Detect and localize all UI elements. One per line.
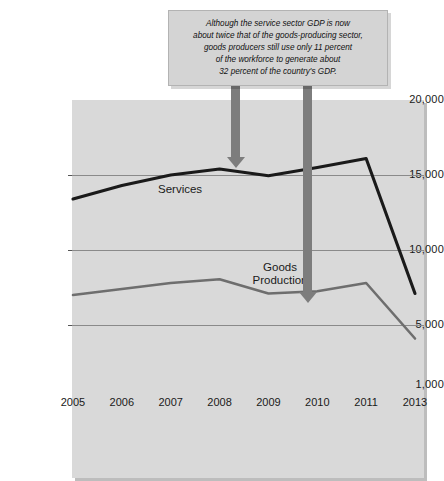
callout-annotation: Although the service sector GDP is now a…	[168, 10, 388, 86]
services-series-label: Services	[158, 183, 202, 196]
arrow-to-services-head	[227, 157, 245, 168]
callout-line-2: about twice that of the goods-producing …	[177, 30, 379, 42]
callout-line-5: 32 percent of the country's GDP.	[177, 66, 379, 78]
callout-line-3: goods producers still use only 11 percen…	[177, 42, 379, 54]
arrow-to-goods-shaft	[303, 78, 312, 293]
goods-production-line	[73, 279, 415, 338]
arrow-to-services-shaft	[231, 78, 240, 158]
callout-line-4: of the workforce to generate about	[177, 54, 379, 66]
callout-line-1: Although the service sector GDP is now	[177, 18, 379, 30]
goods-label-line2: Production	[253, 274, 308, 286]
arrow-to-goods-head	[299, 292, 317, 303]
goods-label-line1: Goods	[263, 261, 297, 273]
